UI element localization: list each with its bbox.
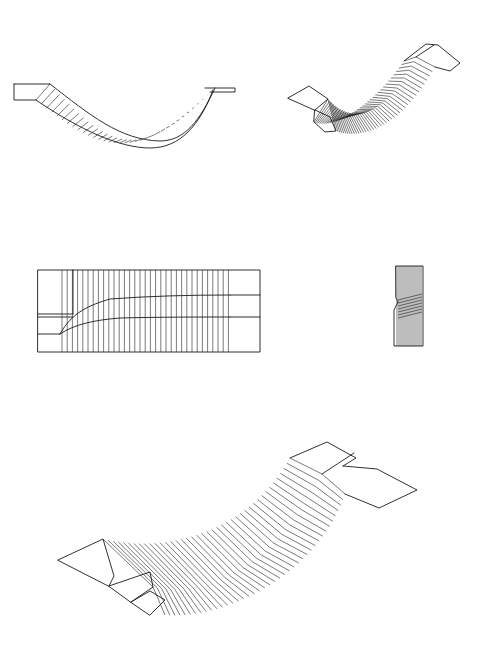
plan-view [38, 270, 260, 352]
side-elevation-view [14, 84, 235, 148]
figure-canvas [0, 0, 478, 671]
isometric-small-view [288, 44, 460, 134]
end-view [394, 266, 423, 346]
isometric-large-view [58, 442, 417, 615]
